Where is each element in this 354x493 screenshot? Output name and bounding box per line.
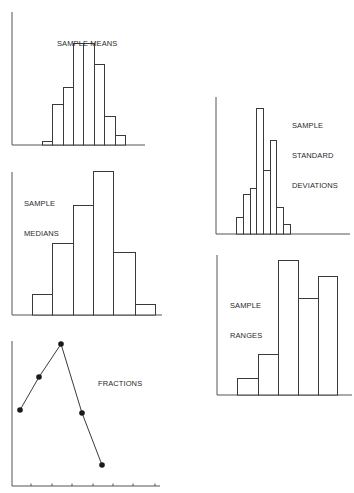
histogram-bar [53,244,74,316]
sample-medians-title: SAMPLE MEDIANS [24,179,59,249]
histogram-bar [271,141,277,235]
data-point-marker [36,374,42,380]
data-point-marker [79,410,85,416]
histogram-bar [237,218,244,235]
title-line: SAMPLE [24,199,59,209]
histogram-bar [53,105,64,146]
title-line: DEVIATIONS [292,181,338,191]
line-series [20,344,102,465]
title-line: SAMPLE [230,301,262,311]
histogram-bar [64,88,74,146]
histogram-bar [238,379,259,396]
title-line: SAMPLE [292,121,338,131]
histogram-bar [279,261,299,396]
histogram-bar [244,195,251,235]
histogram-bar [299,299,319,396]
data-point-marker [99,462,105,468]
title-line: STANDARD [292,151,338,161]
sample-ranges-title: SAMPLE RANGES [230,281,262,351]
title-line: MEDIANS [24,229,59,239]
histogram-bar [95,65,105,146]
histogram-bar [74,206,94,316]
histogram-bar [259,355,279,396]
data-point-marker [58,341,64,347]
title-line: FRACTIONS [98,379,142,389]
histogram-bar [251,189,257,235]
sample-standard-deviations-title: SAMPLE STANDARD DEVIATIONS [292,101,338,201]
histogram-bar [105,117,116,146]
histogram-bar [257,109,264,235]
histogram-bar [94,172,114,316]
histogram-bar [264,171,271,235]
histogram-bar [43,142,53,146]
histogram-bar [116,136,126,146]
histogram-bar [284,225,291,235]
sample-means-title: SAMPLE MEANS [57,19,117,59]
histogram-bar [33,295,53,316]
data-point-marker [17,407,23,413]
fractions-title: FRACTIONS [98,359,142,399]
histogram-bar [114,253,136,316]
histogram-bar [319,277,338,396]
title-line: SAMPLE MEANS [57,39,117,49]
histogram-bar [136,305,156,316]
title-line: RANGES [230,331,262,341]
histogram-bar [277,208,284,235]
